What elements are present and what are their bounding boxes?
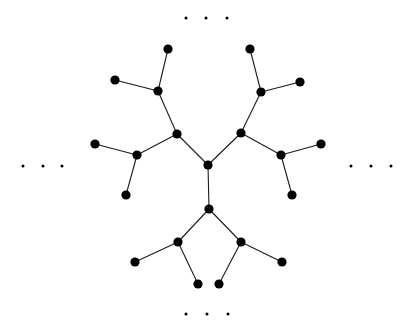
graph-node <box>277 257 286 266</box>
graph-canvas <box>0 0 408 329</box>
ellipsis-dot <box>370 165 373 168</box>
ellipsis-dot <box>226 17 229 20</box>
graph-node <box>256 87 265 96</box>
graph-node <box>193 279 202 288</box>
ellipsis-dot <box>185 17 188 20</box>
graph-node <box>245 44 254 53</box>
ellipsis-dot <box>390 165 393 168</box>
ellipsis-dot <box>61 165 64 168</box>
graph-node <box>204 204 213 213</box>
graph-node <box>316 139 325 148</box>
graph-node <box>172 129 181 138</box>
graph-node <box>110 75 119 84</box>
graph-node <box>295 77 304 86</box>
graph-node <box>236 128 245 137</box>
ellipsis-dot <box>22 165 25 168</box>
graph-node <box>287 190 296 199</box>
ellipsis-dot <box>227 313 230 316</box>
graph-node <box>173 237 182 246</box>
graph-node <box>132 150 141 159</box>
graph-node <box>153 86 162 95</box>
ellipsis-dot <box>42 165 45 168</box>
graph-node <box>121 190 130 199</box>
graph-node <box>163 44 172 53</box>
graph-node <box>203 160 212 169</box>
ellipsis-dot <box>350 165 353 168</box>
graph-node <box>90 139 99 148</box>
ellipsis-dot <box>185 313 188 316</box>
graph-node <box>214 279 223 288</box>
graph-node <box>236 237 245 246</box>
tree-diagram-figure <box>0 0 408 329</box>
ellipsis-dot <box>205 17 208 20</box>
graph-node <box>276 150 285 159</box>
ellipsis-dot <box>206 313 209 316</box>
graph-node <box>130 257 139 266</box>
